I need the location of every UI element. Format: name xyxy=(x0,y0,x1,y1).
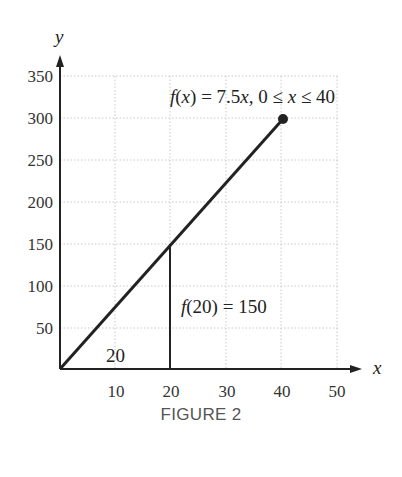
x-axis-arrow-icon xyxy=(350,365,362,373)
svg-text:20: 20 xyxy=(163,382,180,400)
svg-text:40: 40 xyxy=(274,382,291,400)
grid xyxy=(60,76,338,369)
y-axis xyxy=(56,55,64,369)
y-tick-labels: 350 300 250 200 150 100 50 xyxy=(28,67,54,338)
svg-text:150: 150 xyxy=(28,235,54,254)
svg-text:100: 100 xyxy=(28,277,54,296)
svg-text:50: 50 xyxy=(329,382,346,400)
svg-text:30: 30 xyxy=(219,382,236,400)
svg-text:250: 250 xyxy=(28,151,54,170)
figure-caption: FIGURE 2 xyxy=(0,405,402,425)
svg-text:300: 300 xyxy=(28,109,54,128)
function-label: f(x) = 7.5x, 0 ≤ x ≤ 40 xyxy=(170,86,335,108)
x-axis xyxy=(60,365,362,373)
y-axis-arrow-icon xyxy=(56,55,64,67)
x-tick-labels: 10 20 30 40 50 xyxy=(108,382,346,400)
svg-text:200: 200 xyxy=(28,193,54,212)
svg-text:50: 50 xyxy=(36,319,53,338)
point-label: f(20) = 150 xyxy=(181,296,267,318)
endpoint-marker xyxy=(278,114,288,124)
x-axis-label: x xyxy=(372,357,382,378)
svg-text:10: 10 xyxy=(108,382,125,400)
y-axis-label: y xyxy=(53,26,64,47)
base-length-label: 20 xyxy=(106,345,125,366)
svg-text:350: 350 xyxy=(28,67,54,86)
chart-canvas: y x 350 300 250 200 150 100 50 10 20 30 … xyxy=(0,0,402,400)
